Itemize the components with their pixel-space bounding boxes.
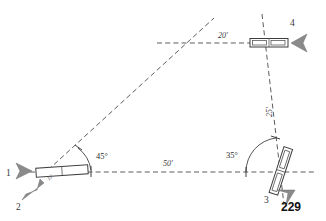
- station-1-rectangle: [36, 165, 89, 178]
- diagram-canvas: 15' 1 2 3 4 50' 2: [0, 0, 326, 221]
- angle-label-35: 35°: [226, 150, 238, 160]
- direction-arrow-2: [22, 179, 44, 200]
- angle-arc-35: [246, 138, 276, 172]
- angle-tick-45-diagonal: [75, 145, 82, 150]
- station-label-4: 4: [290, 18, 295, 28]
- station-label-1: 1: [6, 168, 11, 178]
- dimension-label-25ft: 25': [265, 107, 274, 117]
- station-4-rectangle: [250, 39, 288, 48]
- page-number: 229: [281, 200, 301, 214]
- survey-diagram: 15' 1 2 3 4 50' 2: [0, 0, 326, 221]
- station-label-2: 2: [16, 202, 21, 212]
- dimension-label-20ft: 20': [218, 31, 228, 40]
- station-3-rectangle: [269, 147, 292, 195]
- dimension-label-25ft-group: 25': [265, 107, 274, 117]
- station-label-3: 3: [264, 195, 269, 205]
- direction-arrow-1: [16, 163, 32, 179]
- angle-label-45: 45°: [96, 151, 108, 161]
- direction-arrow-4: [291, 34, 307, 52]
- dimension-label-50ft: 50': [163, 159, 173, 168]
- diagonal-dashed-line: [48, 18, 214, 170]
